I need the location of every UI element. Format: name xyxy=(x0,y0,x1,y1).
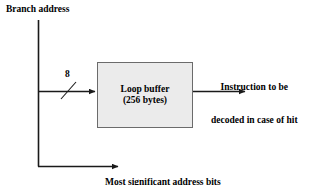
loop-buffer-box-capacity: (256 bytes) xyxy=(123,95,167,107)
instruction-output-line-1: Instruction to be xyxy=(211,82,298,93)
loop-buffer-box-title: Loop buffer xyxy=(121,84,170,96)
instruction-output-line-2: decoded in case of hit xyxy=(211,115,298,126)
bit-width-label: 8 xyxy=(65,69,70,80)
loop-buffer-diagram: Branch address 8 Loop buffer (256 bytes)… xyxy=(0,0,316,185)
loop-buffer-box: Loop buffer (256 bytes) xyxy=(97,62,193,128)
msb-compare-label: Most significant address bits compared t… xyxy=(105,155,221,185)
branch-address-label: Branch address xyxy=(6,4,69,15)
instruction-output-label: Instruction to be decoded in case of hit xyxy=(211,60,298,148)
bit-width-slash-tick xyxy=(61,82,76,99)
msb-compare-line-1: Most significant address bits xyxy=(105,177,221,185)
